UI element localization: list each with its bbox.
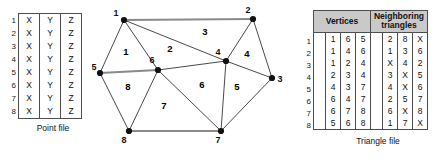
point-file-row-number: 7 — [8, 92, 16, 105]
triangle-file-lead-cell — [314, 81, 326, 93]
triangle-file-spacer-cell — [371, 93, 383, 105]
point-file-cell: X — [19, 27, 40, 40]
point-file-row-numbers: 1 2 3 4 5 6 7 8 — [8, 13, 18, 118]
triangle-file-caption: Triangle file — [313, 136, 443, 146]
tin-edge-6-7 — [158, 70, 221, 131]
tin-vertex-1 — [121, 17, 127, 23]
table-row: X Y Z — [19, 79, 82, 92]
triangle-file-vertex-cell: 7 — [356, 93, 371, 105]
point-file-cell: Y — [40, 53, 61, 66]
point-file-cell: Y — [40, 92, 61, 105]
triangle-file-vertex-cell: 2 — [341, 57, 356, 69]
triangle-file-spacer-cell — [371, 57, 383, 69]
point-file-cell: Z — [61, 79, 82, 92]
triangle-file-spacer-cell — [371, 69, 383, 81]
tin-triangle-label-3: 3 — [202, 26, 207, 37]
triangle-file-vertex-cell: 6 — [341, 117, 356, 130]
tin-vertex-label-7: 7 — [215, 135, 220, 145]
triangle-file-vertex-cell: 4 — [356, 69, 371, 81]
table-row: 647257 — [314, 93, 428, 105]
triangle-file-lead-cell — [314, 33, 326, 46]
tin-vertex-5 — [97, 70, 103, 76]
triangle-file-vertex-cell: 6 — [356, 45, 371, 57]
point-file-row-number: 1 — [8, 14, 16, 27]
triangle-file-vertex-cell: 3 — [341, 81, 356, 93]
table-row: X Y Z — [19, 40, 82, 53]
table-row: 6786X8 — [314, 105, 428, 117]
point-file-cell: X — [19, 105, 40, 119]
point-file-cell: Z — [61, 66, 82, 79]
triangle-file-lead-cell — [314, 57, 326, 69]
tin-triangle-label-8: 8 — [125, 81, 130, 92]
triangle-file-spacer-cell — [371, 117, 383, 130]
triangle-file-neighbor-cell: 7 — [413, 93, 428, 105]
triangle-file-row-number: 8 — [303, 120, 311, 132]
tin-edge-1-2 — [124, 19, 253, 20]
triangle-file-spacer-cell — [371, 45, 383, 57]
triangle-file-row-number: 5 — [303, 84, 311, 96]
triangle-file-neighbor-cell: X — [413, 33, 428, 46]
tin-vertex-2 — [250, 16, 256, 22]
triangle-file-neighbor-cell: 6 — [413, 45, 428, 57]
point-file-cell: Y — [40, 27, 61, 40]
point-file-cell: Z — [61, 105, 82, 119]
point-file-table: X Y Z X Y Z X Y Z X Y Z — [18, 13, 82, 119]
triangle-file-neighbor-cell: 1 — [383, 117, 398, 130]
triangle-file-header-neighbors: Neighboring triangles — [371, 11, 428, 33]
triangle-file-neighbor-cell: 1 — [383, 45, 398, 57]
tin-edge-5-6 — [100, 70, 158, 73]
triangle-file-neighbor-cell: X — [398, 69, 413, 81]
point-file-row-number: 3 — [8, 40, 16, 53]
point-file-cell: X — [19, 79, 40, 92]
nodes-group — [97, 16, 275, 134]
point-file-cell: Z — [61, 40, 82, 53]
triangle-file-vertex-cell: 4 — [341, 93, 356, 105]
triangle-file-row-number: 6 — [303, 96, 311, 108]
triangle-file-neighbor-cell: 5 — [413, 69, 428, 81]
table-row: 124X42 — [314, 57, 428, 69]
tin-edge-4-7 — [221, 61, 226, 131]
triangle-file-vertex-cell: 4 — [356, 57, 371, 69]
point-file-row-number: 8 — [8, 105, 16, 118]
point-file-row-number: 2 — [8, 27, 16, 40]
point-file-cell: Z — [61, 27, 82, 40]
triangle-file-neighbor-cell: X — [383, 57, 398, 69]
triangle-file-vertex-cell: 6 — [326, 105, 341, 117]
triangle-file-vertex-cell: 8 — [356, 105, 371, 117]
tin-svg: 12345678 12345678 — [92, 0, 292, 161]
point-file-table-wrap: 1 2 3 4 5 6 7 8 X Y Z X Y Z — [8, 13, 88, 119]
tin-vertex-label-5: 5 — [92, 62, 97, 72]
table-row: 4374X6 — [314, 81, 428, 93]
tin-vertex-label-1: 1 — [113, 8, 118, 18]
triangle-file-vertex-cell: 2 — [326, 69, 341, 81]
point-file-cell: Y — [40, 40, 61, 53]
triangle-file-vertex-cell: 7 — [356, 81, 371, 93]
table-row: 2343X5 — [314, 69, 428, 81]
tin-triangle-label-6: 6 — [199, 79, 204, 90]
triangle-file-vertex-cell: 3 — [341, 69, 356, 81]
tin-vertex-label-8: 8 — [121, 135, 126, 145]
tin-vertex-4 — [223, 58, 229, 64]
tin-vertex-label-6: 6 — [149, 55, 154, 65]
table-row: 146136 — [314, 45, 428, 57]
triangle-file-vertex-cell: 8 — [356, 117, 371, 130]
point-file-row-number: 5 — [8, 66, 16, 79]
triangle-file-body: 16528X146136124X422343X54374X66472576786… — [314, 33, 428, 130]
triangle-file-vertex-cell: 4 — [326, 81, 341, 93]
triangle-file-spacer-cell — [371, 81, 383, 93]
tin-triangle-label-7: 7 — [161, 100, 166, 111]
triangle-file-neighbor-cell: X — [398, 81, 413, 93]
triangle-file-neighbor-cell: 2 — [383, 33, 398, 46]
table-row: X Y Z — [19, 66, 82, 79]
triangle-file-neighbor-cell: 4 — [398, 57, 413, 69]
tin-vertex-8 — [126, 128, 132, 134]
triangle-file-neighbor-cell: 3 — [398, 45, 413, 57]
tin-triangle-label-2: 2 — [167, 43, 172, 54]
triangle-file-row-number: 3 — [303, 60, 311, 72]
triangle-file-table-wrap: 1 2 3 4 5 6 7 8 Vertices Neighboring tri… — [303, 10, 443, 132]
triangle-file-vertex-cell: 5 — [356, 33, 371, 46]
triangle-file-neighbor-cell: 4 — [383, 81, 398, 93]
point-file-cell: X — [19, 66, 40, 79]
triangle-file-row-number: 4 — [303, 72, 311, 84]
triangle-file-figure: 1 2 3 4 5 6 7 8 Vertices Neighboring tri… — [303, 10, 443, 146]
